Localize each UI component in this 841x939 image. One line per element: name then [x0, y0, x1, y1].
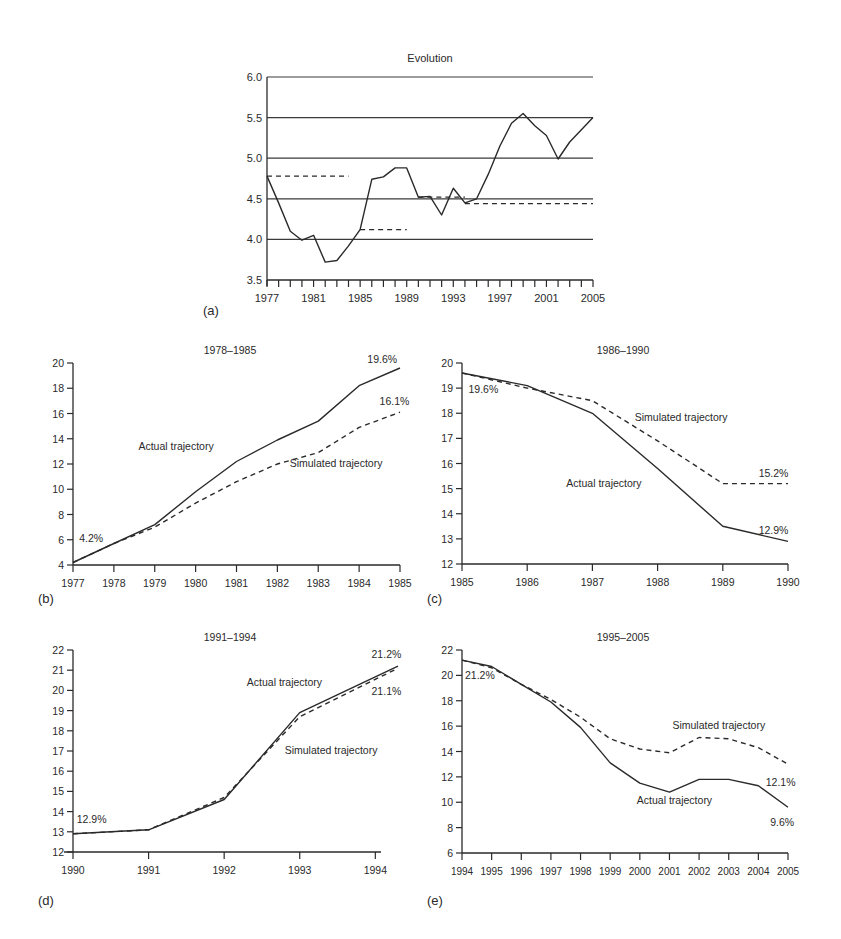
annotation-label: Simulated trajectory [290, 457, 384, 469]
annotation-label: 4.2% [79, 532, 103, 544]
y-tick-label: 20 [441, 357, 453, 369]
y-tick-label: 16 [441, 458, 453, 470]
y-tick-label: 21 [52, 664, 64, 676]
y-tick-label: 15 [441, 483, 453, 495]
chart-title: 1986–1990 [597, 344, 650, 356]
annotation-label: 12.1% [766, 776, 796, 788]
y-tick-label: 16 [52, 765, 64, 777]
figure: Evolution3.54.04.55.05.56.01977198119851… [0, 0, 841, 939]
x-tick-label: 1985 [388, 577, 412, 589]
actual-trajectory-line [462, 660, 788, 807]
x-tick-label: 1985 [450, 576, 474, 588]
x-tick-label: 1998 [569, 866, 592, 877]
chart-title: Evolution [407, 52, 452, 64]
x-tick-label: 2002 [688, 866, 711, 877]
annotation-label: 16.1% [380, 395, 410, 407]
annotation-label: 21.1% [372, 685, 402, 697]
x-tick-label: 2000 [629, 866, 652, 877]
x-tick-label: 1992 [212, 864, 236, 876]
x-tick-label: 2001 [534, 292, 558, 304]
y-tick-label: 4 [58, 559, 64, 571]
chart-title: 1995–2005 [597, 631, 650, 643]
x-tick-label: 1989 [711, 576, 735, 588]
x-tick-label: 1984 [347, 577, 371, 589]
x-tick-label: 1978 [102, 577, 126, 589]
x-tick-label: 1980 [184, 577, 208, 589]
y-tick-label: 4.0 [247, 233, 262, 245]
chart-canvas: Evolution3.54.04.55.05.56.01977198119851… [0, 0, 841, 939]
annotation-label: Actual trajectory [138, 440, 214, 452]
annotation-label: 21.2% [465, 669, 495, 681]
y-tick-label: 10 [441, 796, 453, 808]
x-tick-label: 1981 [225, 577, 249, 589]
y-tick-label: 12 [52, 458, 64, 470]
x-tick-label: 1981 [301, 292, 325, 304]
x-tick-label: 2004 [747, 866, 770, 877]
y-tick-label: 10 [52, 483, 64, 495]
y-tick-label: 13 [441, 533, 453, 545]
annotation-label: Simulated trajectory [672, 719, 766, 731]
chart-title: 1991–1994 [204, 631, 257, 643]
x-tick-label: 1988 [646, 576, 670, 588]
x-tick-label: 1990 [61, 864, 85, 876]
y-tick-label: 20 [52, 684, 64, 696]
y-tick-label: 16 [52, 408, 64, 420]
x-tick-label: 1999 [599, 866, 622, 877]
annotation-label: Actual trajectory [247, 676, 323, 688]
y-tick-label: 17 [52, 745, 64, 757]
y-tick-label: 5.5 [247, 112, 262, 124]
y-tick-label: 18 [52, 725, 64, 737]
x-tick-label: 1995 [481, 866, 504, 877]
y-tick-label: 8 [58, 509, 64, 521]
y-tick-label: 6.0 [247, 71, 262, 83]
actual-trajectory-line [462, 373, 788, 541]
x-tick-label: 1977 [61, 577, 85, 589]
panel-b-1978-1985-chart: 1978–19854681012141618201977197819791980… [52, 344, 412, 589]
x-tick-label: 1997 [540, 866, 563, 877]
y-tick-label: 20 [441, 669, 453, 681]
x-tick-label: 1993 [441, 292, 465, 304]
y-tick-label: 20 [52, 357, 64, 369]
y-tick-label: 14 [52, 433, 64, 445]
x-tick-label: 1993 [288, 864, 312, 876]
x-tick-label: 1985 [348, 292, 372, 304]
x-tick-label: 1979 [143, 577, 167, 589]
y-tick-label: 19 [52, 705, 64, 717]
chart-title: 1978–1985 [204, 344, 257, 356]
x-tick-label: 2003 [718, 866, 741, 877]
y-tick-label: 15 [52, 785, 64, 797]
y-tick-label: 18 [52, 382, 64, 394]
x-tick-label: 1996 [510, 866, 533, 877]
panel-d-1991-1994-chart: 1991–19941213141516171819202122199019911… [52, 631, 401, 876]
panel-a-evolution-chart: Evolution3.54.04.55.05.56.01977198119851… [247, 52, 606, 304]
x-tick-label: 1983 [307, 577, 331, 589]
y-tick-label: 18 [441, 407, 453, 419]
y-tick-label: 14 [441, 746, 453, 758]
x-tick-label: 1977 [255, 292, 279, 304]
y-tick-label: 6 [58, 534, 64, 546]
y-tick-label: 12 [441, 771, 453, 783]
simulated-trajectory-line [462, 373, 788, 484]
x-tick-label: 1997 [488, 292, 512, 304]
annotation-label: 12.9% [759, 524, 789, 536]
annotation-label: 9.6% [770, 816, 794, 828]
y-tick-label: 12 [441, 558, 453, 570]
annotation-label: 19.6% [367, 353, 397, 365]
panel-letter-c: (c) [427, 591, 442, 606]
annotation-label: 15.2% [759, 467, 789, 479]
x-tick-label: 1990 [776, 576, 800, 588]
x-tick-label: 2005 [581, 292, 605, 304]
panel-letter-b: (b) [38, 591, 54, 606]
panel-letter-d: (d) [38, 893, 54, 908]
annotation-label: Simulated trajectory [635, 411, 729, 423]
x-tick-label: 1982 [266, 577, 290, 589]
x-tick-label: 1986 [516, 576, 540, 588]
y-tick-label: 16 [441, 720, 453, 732]
panel-letter-a: (a) [203, 303, 219, 318]
x-tick-label: 1987 [581, 576, 605, 588]
y-tick-label: 3.5 [247, 274, 262, 286]
annotation-label: 12.9% [77, 813, 107, 825]
y-tick-label: 17 [441, 432, 453, 444]
y-tick-label: 18 [441, 695, 453, 707]
panel-e-1995-2005-chart: 1995–20056810121416182022199419951996199… [441, 631, 799, 877]
